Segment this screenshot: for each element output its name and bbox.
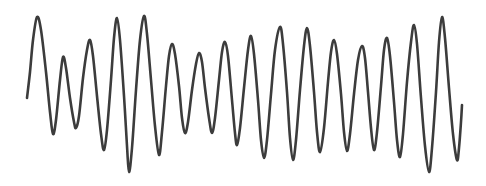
waveform-figure (0, 0, 486, 186)
waveform-canvas (0, 0, 486, 186)
